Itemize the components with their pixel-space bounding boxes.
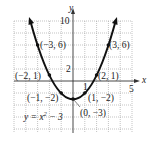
- point-label-m1: (−1, −2): [27, 93, 58, 104]
- x-axis-label: x: [141, 75, 147, 85]
- vertex-leader-line: [74, 100, 80, 107]
- tick-y2: 2: [66, 64, 71, 74]
- tick-x5: 5: [129, 84, 134, 94]
- parabola-graph: y x 10 2 1 5 (−3, 6) (3, 6) (−2, 1) (2, …: [0, 0, 153, 150]
- point-label-m2: (−2, 1): [15, 71, 41, 82]
- x-axis-arrow-icon: [134, 79, 140, 83]
- point-label-m3: (−3, 6): [40, 40, 66, 51]
- tick-y10: 10: [60, 16, 70, 26]
- equation-label: y = x2 − 3: [23, 110, 63, 122]
- y-axis-label: y: [68, 3, 74, 13]
- point-label-2: (2, 1): [98, 71, 119, 82]
- tick-x1: 1: [83, 82, 88, 92]
- point-label-0: (0, −3): [80, 108, 106, 119]
- point-label-1: (1, −2): [88, 93, 114, 104]
- point-label-3: (3, 6): [109, 40, 130, 51]
- curve-arrow-left-icon: [29, 17, 35, 25]
